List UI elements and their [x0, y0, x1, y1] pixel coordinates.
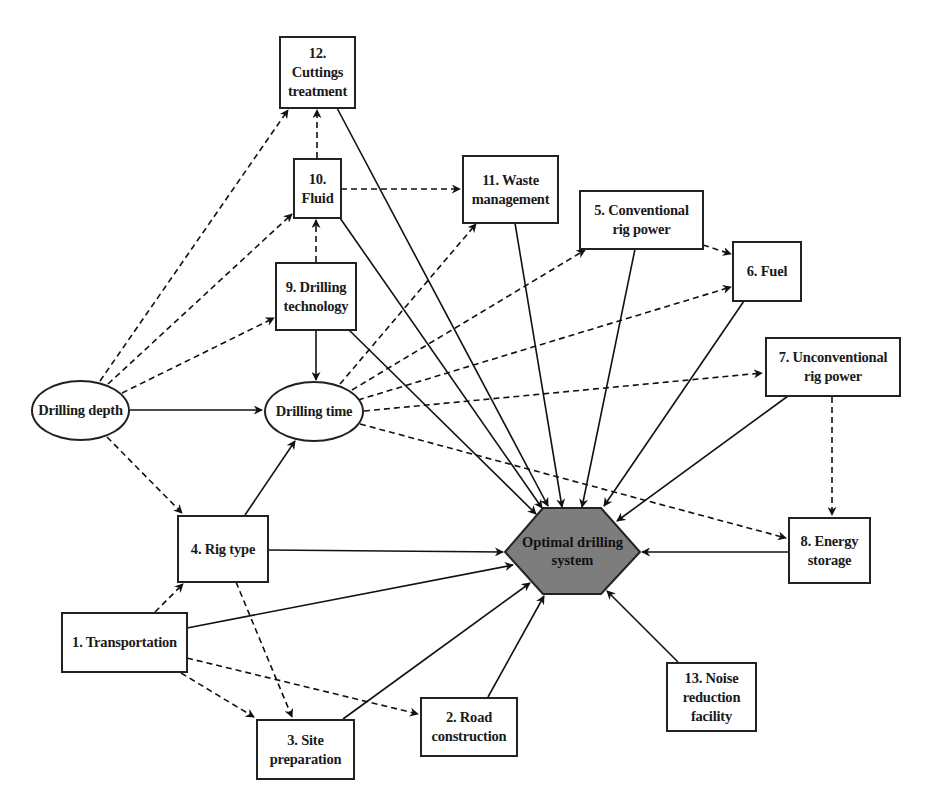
edge-n11-optimal	[515, 223, 562, 507]
edge-n4-time	[245, 441, 295, 515]
node-9-drilling-technology[interactable]: 9. Drilling technology	[275, 262, 357, 331]
edge-n5-optimal	[582, 249, 635, 507]
edge-n7-optimal	[617, 396, 788, 521]
node-2-label: 2. Road construction	[432, 708, 507, 746]
edge-n13-optimal	[607, 591, 678, 662]
drilling-time-label: Drilling time	[276, 402, 353, 421]
node-1-label: 1. Transportation	[72, 633, 177, 652]
node-8-energy-storage[interactable]: 8. Energy storage	[788, 517, 871, 584]
edge-time-n6	[358, 287, 731, 400]
node-2-road-construction[interactable]: 2. Road construction	[420, 697, 518, 757]
optimal-drilling-system-label: Optimal drilling system	[522, 533, 623, 569]
node-11-label: 11. Waste management	[472, 171, 550, 209]
node-8-label: 8. Energy storage	[801, 532, 859, 570]
edge-depth-n9	[122, 318, 274, 393]
drilling-depth-node[interactable]: Drilling depth	[31, 380, 130, 441]
edge-n6-optimal	[604, 301, 744, 506]
edge-n5-n6	[703, 245, 731, 254]
edge-depth-n12	[100, 110, 288, 381]
node-6-label: 6. Fuel	[747, 262, 788, 281]
edge-depth-n10	[108, 214, 292, 384]
edge-time-n7	[364, 373, 762, 411]
node-11-waste-management[interactable]: 11. Waste management	[462, 155, 559, 224]
edge-n2-optimal	[488, 596, 544, 697]
node-4-rig-type[interactable]: 4. Rig type	[177, 515, 269, 583]
edge-n1-n4	[155, 584, 183, 612]
drilling-depth-label: Drilling depth	[38, 401, 123, 420]
edge-n10-optimal	[340, 218, 542, 508]
node-9-label: 9. Drilling technology	[284, 278, 349, 316]
node-12-label: 12. Cuttings treatment	[288, 44, 347, 101]
node-10-fluid[interactable]: 10. Fluid	[293, 158, 342, 219]
edge-n4-n3	[236, 582, 292, 717]
node-10-label: 10. Fluid	[301, 170, 333, 208]
drilling-time-node[interactable]: Drilling time	[264, 381, 364, 442]
node-4-label: 4. Rig type	[191, 540, 255, 559]
node-5-conventional-rig-power[interactable]: 5. Conventional rig power	[579, 190, 704, 250]
node-7-label: 7. Unconventional rig power	[779, 348, 888, 386]
node-3-site-preparation[interactable]: 3. Site preparation	[256, 719, 355, 780]
node-12-cuttings-treatment[interactable]: 12. Cuttings treatment	[279, 36, 356, 109]
node-13-label: 13. Noise reduction facility	[683, 669, 741, 726]
edge-n1-n2	[187, 658, 418, 714]
edge-n4-optimal	[268, 550, 503, 552]
node-6-fuel[interactable]: 6. Fuel	[732, 241, 802, 302]
node-5-label: 5. Conventional rig power	[594, 201, 689, 239]
edge-depth-n4	[107, 437, 182, 513]
node-1-transportation[interactable]: 1. Transportation	[61, 612, 188, 673]
node-7-unconventional-rig-power[interactable]: 7. Unconventional rig power	[765, 337, 901, 397]
node-13-noise-reduction-facility[interactable]: 13. Noise reduction facility	[666, 662, 757, 732]
node-3-label: 3. Site preparation	[270, 731, 342, 769]
optimal-drilling-system-label-wrap: Optimal drilling system	[505, 508, 640, 594]
edge-n9-optimal	[349, 330, 536, 514]
edge-n1-n3	[181, 673, 254, 717]
edge-time-n5	[352, 250, 585, 390]
diagram-canvas	[0, 0, 928, 808]
